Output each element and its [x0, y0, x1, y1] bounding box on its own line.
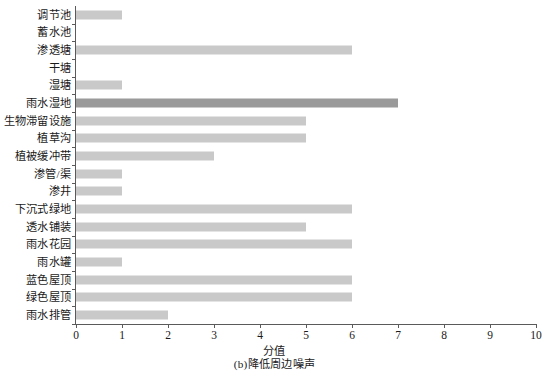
- figure-caption: (b)降低周边噪声: [0, 355, 549, 371]
- bar: [76, 293, 352, 302]
- chart-row: 湿塘: [76, 77, 536, 95]
- chart-row: 干塘: [76, 59, 536, 77]
- bar: [76, 10, 122, 19]
- x-axis-tick-label: 8: [441, 329, 447, 341]
- x-axis-tick-mark: [168, 324, 169, 328]
- x-axis-tick-label: 6: [349, 329, 355, 341]
- y-axis-tick-label: 植被缓冲带: [15, 150, 71, 162]
- y-axis-tick-label: 湿塘: [49, 79, 71, 91]
- x-axis-tick-mark: [444, 324, 445, 328]
- y-axis-tick-label: 生物滞留设施: [4, 115, 71, 127]
- chart-row: 渗管/渠: [76, 165, 536, 183]
- x-axis-tick-label: 4: [257, 329, 263, 341]
- x-axis-tick-mark: [122, 324, 123, 328]
- y-axis-tick-label: 下沉式绿地: [15, 203, 71, 215]
- plot-area: 调节池蓄水池渗透塘干塘湿塘雨水湿地生物滞留设施植草沟植被缓冲带渗管/渠渗井下沉式…: [76, 6, 536, 324]
- bar: [76, 99, 398, 108]
- chart-row: 蓄水池: [76, 24, 536, 42]
- bar: [76, 222, 306, 231]
- x-axis-tick-mark: [306, 324, 307, 328]
- y-axis-tick-label: 渗井: [49, 185, 71, 197]
- bar: [76, 46, 352, 55]
- x-axis-tick-label: 5: [303, 329, 309, 341]
- chart-row: 生物滞留设施: [76, 112, 536, 130]
- chart-row: 雨水排管: [76, 306, 536, 324]
- bar: [76, 134, 306, 143]
- y-axis-tick-label: 植草沟: [37, 132, 71, 144]
- x-axis-tick-label: 7: [395, 329, 401, 341]
- bar: [76, 116, 306, 125]
- y-axis-tick-label: 蓝色屋顶: [26, 274, 71, 286]
- chart-row: 植草沟: [76, 130, 536, 148]
- y-axis-tick-label: 绿色屋顶: [26, 291, 71, 303]
- y-axis-tick-label: 渗管/渠: [34, 168, 71, 180]
- chart-row: 渗透塘: [76, 41, 536, 59]
- x-axis-tick-mark: [352, 324, 353, 328]
- x-axis-tick-label: 9: [487, 329, 493, 341]
- x-axis-tick-label: 1: [119, 329, 125, 341]
- bar: [76, 169, 122, 178]
- x-axis-tick-mark: [490, 324, 491, 328]
- bar: [76, 240, 352, 249]
- chart-row: 下沉式绿地: [76, 200, 536, 218]
- bar: [76, 152, 214, 161]
- x-axis-tick-label: 10: [530, 329, 542, 341]
- x-axis-tick-mark: [76, 324, 77, 328]
- chart-row: 雨水罐: [76, 253, 536, 271]
- chart-row: 透水铺装: [76, 218, 536, 236]
- bar: [76, 311, 168, 320]
- chart-row: 调节池: [76, 6, 536, 24]
- bar: [76, 275, 352, 284]
- chart-row: 蓝色屋顶: [76, 271, 536, 289]
- chart-row: 植被缓冲带: [76, 147, 536, 165]
- y-axis-tick-label: 渗透塘: [37, 44, 71, 56]
- bar: [76, 187, 122, 196]
- bar: [76, 81, 122, 90]
- y-axis-tick-label: 雨水罐: [37, 256, 71, 268]
- x-axis-tick-mark: [398, 324, 399, 328]
- x-axis-tick-mark: [260, 324, 261, 328]
- chart-row: 雨水湿地: [76, 94, 536, 112]
- y-axis-tick-label: 干塘: [49, 62, 71, 74]
- y-axis-tick-label: 雨水湿地: [26, 97, 71, 109]
- chart-row: 雨水花园: [76, 236, 536, 254]
- x-axis-tick-label: 3: [211, 329, 217, 341]
- chart-row: 渗井: [76, 183, 536, 201]
- y-axis-tick-label: 透水铺装: [26, 221, 71, 233]
- bar: [76, 205, 352, 214]
- x-axis-tick-mark: [536, 324, 537, 328]
- chart-row: 绿色屋顶: [76, 289, 536, 307]
- y-axis-tick-label: 雨水排管: [26, 309, 71, 321]
- bar: [76, 258, 122, 267]
- x-axis-tick-label: 2: [165, 329, 171, 341]
- y-axis-tick-label: 雨水花园: [26, 238, 71, 250]
- y-axis-tick-label: 蓄水池: [37, 26, 71, 38]
- x-axis-tick-mark: [214, 324, 215, 328]
- x-axis-tick-label: 0: [73, 329, 79, 341]
- y-axis-tick-label: 调节池: [37, 9, 71, 21]
